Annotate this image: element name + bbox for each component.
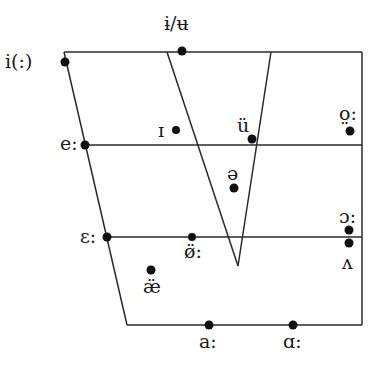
dot-schwa [230,184,239,193]
dot-o-long [346,127,355,136]
label-e-long: e: [60,134,78,153]
dot-wedge [345,239,354,248]
dot-e-long [81,141,90,150]
label-o-long: o̤: [339,104,357,123]
dot-open-e-long [103,233,112,242]
dot-i-long [61,58,70,67]
label-wedge: ʌ [342,253,353,272]
dot-barred-i-u [178,47,187,56]
dot-a-long [205,321,214,330]
vowel-chart [0,0,384,367]
label-open-o-long: ɔ: [339,207,356,226]
wedge-left-arm [167,52,238,266]
frame-left-line [64,52,127,325]
label-ash: æ̈ [143,277,161,296]
dot-ash [147,266,156,275]
label-small-cap-i: ɪ [158,121,164,140]
label-o-slash-long: ø̈: [184,242,202,261]
label-schwa: ə [227,164,238,183]
label-open-e-long: ɛ: [80,227,96,246]
wedge-right-arm [238,52,271,266]
label-i-long: i(:) [5,52,32,71]
label-barred-i-u: ɨ/ʉ [164,14,189,33]
label-u-diaeresis: ü [237,116,249,135]
vowel-frame [64,52,362,325]
dot-small-cap-i [172,126,180,134]
vowel-dots [61,47,355,330]
label-alpha-long: ɑ: [283,332,302,351]
label-a-long: a: [199,332,217,351]
dot-alpha-long [289,321,298,330]
